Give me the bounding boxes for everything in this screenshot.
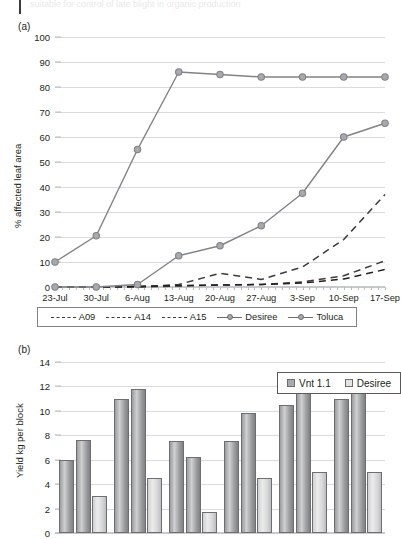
x-tick-label: 23-Jul [42,293,67,303]
y-tick-label: 100 [34,32,50,43]
x-minor-tick [337,287,338,290]
x-minor-tick [268,287,269,290]
x-minor-tick [364,287,365,290]
x-minor-tick [234,287,235,290]
bar-group-3-vnt [186,457,201,533]
x-minor-tick [124,287,125,290]
series-line-toluca [55,123,385,287]
y-tick-label: 6 [45,454,50,465]
legend-b-item-desiree[interactable]: Desiree [345,378,391,389]
x-tick-label: 6-Aug [125,293,150,303]
line-chart-panel-a: 0102030405060708090100 23-Jul30-Jul6-Aug… [0,30,395,335]
legend-swatch-a09 [51,313,76,322]
y-tick-label: 2 [45,503,50,514]
y-tick-label: 30 [39,207,50,218]
y-tick-mark [55,362,61,363]
data-point-marker [382,74,388,80]
bar-group-4-vnt [241,413,256,533]
legend-b-label: Vnt 1.1 [299,378,331,389]
bar-group-3-desiree [202,512,217,533]
x-minor-tick [330,287,331,290]
bar-group-5-desiree [312,472,327,533]
x-minor-tick [309,287,310,290]
x-minor-tick [213,287,214,290]
x-minor-tick [316,287,317,290]
y-tick-label: 40 [39,182,50,193]
legend-panel-b: Vnt 1.1Desiree [277,372,401,394]
gridline [55,362,385,363]
x-minor-tick [179,287,180,290]
legend-b-label: Desiree [357,378,391,389]
x-minor-tick [344,287,345,290]
y-tick-label: 14 [39,357,50,368]
gridline [55,533,385,534]
x-minor-tick [193,287,194,290]
y-tick-label: 12 [39,381,50,392]
bar-group-4-desiree [257,478,272,533]
data-point-marker [176,253,182,259]
data-point-marker [382,120,388,126]
legend-panel-a: A09A14A15DesireeToluca [37,307,357,327]
legend-item-desiree[interactable]: Desiree [217,312,277,322]
x-minor-tick [351,287,352,290]
data-point-marker [93,233,99,239]
bar-chart-panel-b: 02468101214 Vnt 1.1Desiree [0,352,395,535]
plot-area-a: 0102030405060708090100 23-Jul30-Jul6-Aug… [55,37,385,287]
x-minor-tick [165,287,166,290]
legend-label: A15 [190,312,207,322]
legend-item-a15[interactable]: A15 [162,312,207,322]
data-point-marker [299,74,305,80]
bar-group-1-vnt [59,460,74,533]
x-minor-tick [241,287,242,290]
x-minor-tick [220,287,221,290]
data-point-marker [52,284,58,290]
y-tick-label: 20 [39,232,50,243]
y-tick-label: 80 [39,82,50,93]
x-minor-tick [186,287,187,290]
legend-label: A09 [79,312,96,322]
legend-b-item-vnt-1-1[interactable]: Vnt 1.1 [287,378,331,389]
y-tick-label: 4 [45,479,50,490]
x-tick-label: 20-Aug [205,293,235,303]
data-point-marker [217,71,223,77]
x-tick-label: 17-Sep [370,293,400,303]
x-minor-tick [110,287,111,290]
x-minor-tick [151,287,152,290]
data-point-marker [258,223,264,229]
legend-item-toluca[interactable]: Toluca [288,312,343,322]
legend-line [51,317,76,318]
x-minor-tick [254,287,255,290]
y-tick-mark [55,435,61,436]
legend-item-a14[interactable]: A14 [106,312,151,322]
x-minor-tick [378,287,379,290]
y-tick-label: 0 [45,528,50,539]
bar-group-6-desiree [367,472,382,533]
plot-area-b: 02468101214 Vnt 1.1Desiree [55,362,385,533]
x-minor-tick [206,287,207,290]
cropped-header-text: suitable for control of late blight in o… [30,0,330,9]
bar-group-5-vnt [296,386,311,533]
x-tick-label: 27-Aug [246,293,276,303]
legend-swatch-desiree [217,313,242,322]
data-point-marker [258,74,264,80]
legend-line [162,317,187,318]
page-edge-rule [19,0,21,14]
x-tick-label: 3-Sep [290,293,315,303]
x-minor-tick [323,287,324,290]
legend-marker-icon [298,314,304,320]
bar-group-2-vnt [114,399,129,533]
bar-group-6-vnt [351,374,366,533]
legend-label: Toluca [316,312,343,322]
data-point-marker [341,74,347,80]
y-tick-label: 8 [45,430,50,441]
y-tick-mark [55,410,61,411]
y-tick-label: 10 [39,405,50,416]
legend-item-a09[interactable]: A09 [51,312,96,322]
y-tick-label: 90 [39,57,50,68]
data-point-marker [134,281,140,287]
legend-swatch-a14 [106,313,131,322]
x-minor-tick [289,287,290,290]
y-tick-label: 0 [45,282,50,293]
data-point-marker [299,190,305,196]
